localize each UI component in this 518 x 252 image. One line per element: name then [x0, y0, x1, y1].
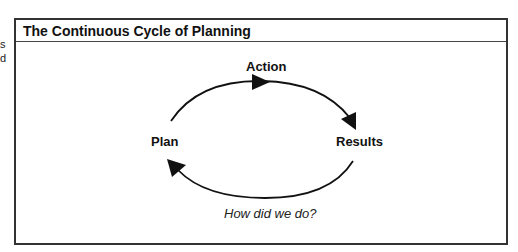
- arrowhead-down-icon: [341, 112, 356, 130]
- bottom-arc: [178, 161, 353, 198]
- node-plan: Plan: [151, 134, 178, 149]
- node-results: Results: [336, 134, 383, 149]
- top-arc: [171, 81, 350, 121]
- feedback-label: How did we do?: [224, 206, 317, 221]
- node-action: Action: [246, 59, 286, 74]
- arrowhead-right-icon: [252, 74, 270, 90]
